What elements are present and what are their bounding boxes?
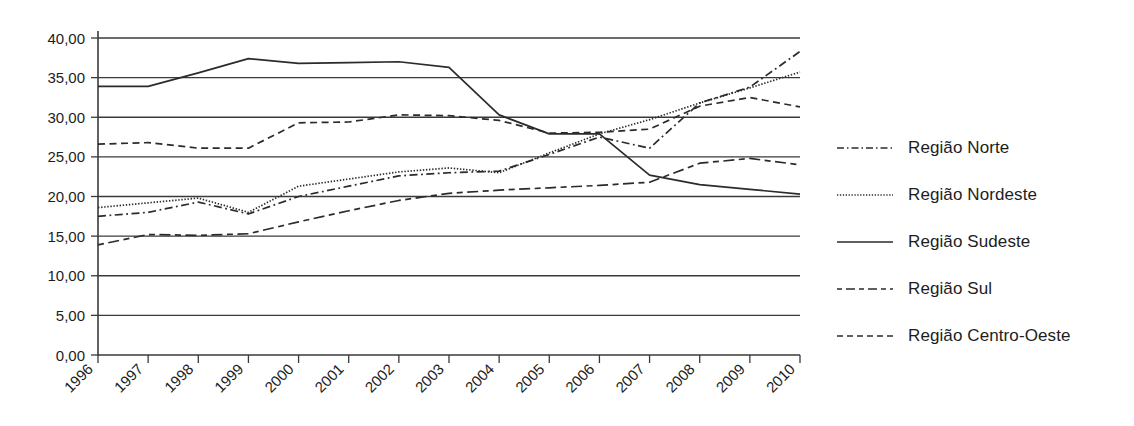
x-axis-tick-label: 1998: [161, 360, 197, 396]
series-line-regi-o-sudeste: [98, 59, 800, 195]
x-axis-tick-label: 2003: [412, 360, 448, 396]
x-axis-tick-label: 1999: [211, 360, 247, 396]
x-axis-tick-label: 2006: [562, 360, 598, 396]
y-axis-tick-label: 20,00: [47, 188, 85, 205]
legend-label: Região Sul: [908, 279, 992, 299]
x-axis-tick-label: 2009: [712, 360, 748, 396]
legend-label: Região Sudeste: [908, 232, 1030, 252]
line-chart: 0,005,0010,0015,0020,0025,0030,0035,0040…: [0, 0, 1134, 426]
x-axis-tick-label: 2002: [361, 360, 397, 396]
y-axis-tick-label: 30,00: [47, 109, 85, 126]
legend-swatch-longdash-icon: [836, 283, 894, 295]
legend-label: Região Nordeste: [908, 185, 1037, 205]
y-axis-tick-label: 40,00: [47, 30, 85, 47]
x-axis-tick-label: 2008: [662, 360, 698, 396]
x-axis-tick-label: 2010: [763, 360, 799, 396]
legend-swatch-dashed-icon: [836, 330, 894, 342]
legend-swatch-dotted-icon: [836, 189, 894, 201]
x-axis-tick-label: 2005: [512, 360, 548, 396]
legend-item-regiao-nordeste[interactable]: Região Nordeste: [836, 171, 1126, 218]
legend-swatch-dashdot-icon: [836, 142, 894, 154]
series-line-regi-o-centro-oeste: [98, 97, 800, 148]
legend-item-regiao-sudeste[interactable]: Região Sudeste: [836, 218, 1126, 265]
y-axis-tick-label: 10,00: [47, 267, 85, 284]
legend-label: Região Norte: [908, 138, 1009, 158]
legend-item-regiao-sul[interactable]: Região Sul: [836, 265, 1126, 312]
x-axis-tick-label: 2001: [311, 360, 347, 396]
y-axis-tick-label: 0,00: [56, 347, 85, 364]
x-axis-tick-label: 1997: [111, 360, 147, 396]
chart-legend: Região Norte Região Nordeste Região Sude…: [836, 124, 1126, 359]
x-axis-tick-label: 2000: [261, 360, 297, 396]
legend-label: Região Centro-Oeste: [908, 326, 1071, 346]
y-axis-tick-label: 5,00: [56, 307, 85, 324]
x-axis-tick-label: 1996: [61, 360, 97, 396]
y-axis-tick-label: 25,00: [47, 148, 85, 165]
series-line-regi-o-nordeste: [98, 72, 800, 212]
legend-item-regiao-centro-oeste[interactable]: Região Centro-Oeste: [836, 312, 1126, 359]
legend-item-regiao-norte[interactable]: Região Norte: [836, 124, 1126, 171]
series-line-regi-o-sul: [98, 158, 800, 244]
legend-swatch-solid-icon: [836, 236, 894, 248]
series-line-regi-o-norte: [98, 51, 800, 216]
x-axis-tick-label: 2004: [462, 360, 498, 396]
x-axis-tick-label: 2007: [612, 360, 648, 396]
y-axis-tick-label: 15,00: [47, 228, 85, 245]
y-axis-tick-label: 35,00: [47, 69, 85, 86]
